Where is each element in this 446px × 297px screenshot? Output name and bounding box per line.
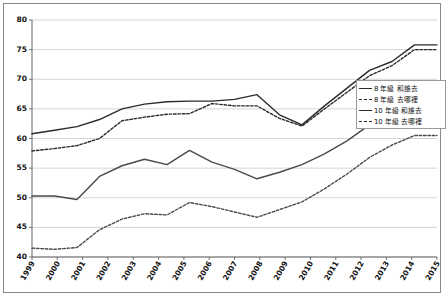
legend-line-dashed-icon (359, 117, 372, 126)
legend-item-1[interactable]: 8 年級 去哪裡 (359, 94, 445, 105)
x-axis-tick-label: 2014 (398, 260, 416, 283)
legend-item-3[interactable]: 10 年級 去哪裡 (359, 116, 445, 127)
series-line (32, 136, 437, 250)
y-axis-tick-label: 45 (17, 222, 27, 231)
x-axis-tick-label: 2003 (120, 260, 138, 283)
y-axis-tick-label: 75 (17, 45, 27, 54)
x-axis-tick-label: 2012 (348, 260, 366, 283)
chart-legend: 8 年級 和誰去 8 年級 去哪裡 10 年級 和誰去 10 年級 去哪裡 (356, 80, 446, 129)
legend-line-solid-icon (359, 84, 372, 93)
legend-label: 8 年級 去哪裡 (374, 95, 418, 105)
legend-label: 8 年級 和誰去 (374, 84, 418, 94)
x-axis-tick-label: 2015 (424, 260, 440, 283)
legend-item-2[interactable]: 10 年級 和誰去 (359, 105, 445, 116)
x-axis-tick-label: 2006 (196, 260, 214, 283)
legend-label: 10 年級 去哪裡 (374, 117, 422, 127)
y-axis-tick-label: 40 (17, 252, 27, 261)
y-axis-tick-label: 50 (17, 193, 27, 202)
y-axis-tick-label: 55 (17, 163, 27, 172)
legend-item-0[interactable]: 8 年級 和誰去 (359, 83, 445, 94)
x-axis-tick-label: 2001 (69, 260, 87, 283)
legend-line-solid-icon (359, 106, 372, 115)
x-axis-tick-label: 2011 (322, 260, 340, 283)
legend-line-dashed-icon (359, 95, 372, 104)
x-axis-tick-label: 2005 (170, 260, 188, 283)
chart-container: 4045505560657075801999200020012002200320… (3, 3, 441, 293)
x-axis-tick-label: 2009 (272, 260, 290, 283)
y-axis-tick-label: 65 (17, 104, 27, 113)
y-axis-tick-label: 60 (17, 134, 27, 143)
x-axis-tick-label: 2013 (373, 260, 391, 283)
x-axis-tick-label: 2007 (221, 260, 239, 283)
x-axis-tick-label: 2002 (94, 260, 112, 283)
x-axis-tick-label: 2004 (145, 260, 163, 283)
y-axis-tick-label: 80 (17, 15, 27, 24)
x-axis-tick-label: 1999 (19, 260, 37, 283)
x-axis-tick-label: 2000 (44, 260, 62, 283)
line-chart-plot: 4045505560657075801999200020012002200320… (4, 4, 440, 292)
x-axis-tick-label: 2010 (297, 260, 315, 283)
x-axis-tick-label: 2008 (246, 260, 264, 283)
y-axis-tick-label: 70 (17, 74, 27, 83)
legend-label: 10 年級 和誰去 (374, 106, 422, 116)
